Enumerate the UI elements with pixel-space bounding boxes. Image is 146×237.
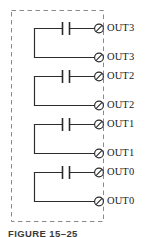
branch-out2: OUT2 OUT2 [35,70,135,110]
terminal-label-out0-top: OUT0 [107,166,134,177]
capacitor-icon-out2 [63,70,70,83]
capacitor-icon-out3 [63,22,70,35]
terminal-icon-out3-top[interactable] [95,24,104,33]
figure-container: OUT3 OUT3 OUT2 OUT2 [0,0,146,237]
terminal-label-out2-bottom: OUT2 [107,99,134,110]
capacitor-icon-out1 [63,118,70,131]
enclosure-dashed-boundary [12,11,104,222]
branch-out2-wire [35,77,96,106]
terminal-label-out2-top: OUT2 [107,70,134,81]
terminal-icon-out0-top[interactable] [95,168,104,177]
terminal-icon-out1-bottom[interactable] [95,149,104,158]
terminal-icon-out2-top[interactable] [95,72,104,81]
capacitor-icon-out0 [63,166,70,179]
terminal-label-out3-bottom: OUT3 [107,51,134,62]
terminal-label-out1-bottom: OUT1 [107,147,134,158]
terminal-icon-out0-bottom[interactable] [95,197,104,206]
terminal-label-out3-top: OUT3 [107,22,134,33]
terminal-icon-out3-bottom[interactable] [95,53,104,62]
terminal-label-out1-top: OUT1 [107,118,134,129]
terminal-icon-out1-top[interactable] [95,120,104,129]
branch-out0: OUT0 OUT0 [35,166,135,206]
terminal-icon-out2-bottom[interactable] [95,101,104,110]
figure-caption: FIGURE 15–25 [8,228,78,237]
branch-out1: OUT1 OUT1 [35,118,135,158]
branch-out0-wire [35,173,96,202]
branch-out3-wire [35,29,96,58]
branch-out1-wire [35,125,96,154]
branch-out3: OUT3 OUT3 [35,22,135,62]
circuit-schematic: OUT3 OUT3 OUT2 OUT2 [0,0,146,237]
terminal-label-out0-bottom: OUT0 [107,195,134,206]
